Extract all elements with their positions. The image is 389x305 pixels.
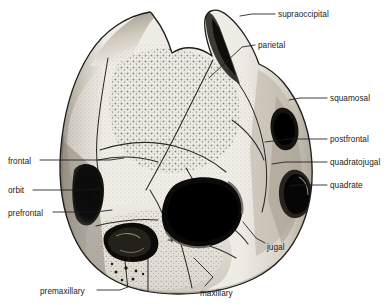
label-quadratojugal: quadratojugal <box>330 158 380 167</box>
leader-line-premaxillary <box>97 287 128 290</box>
label-orbit: orbit <box>8 186 24 195</box>
leader-line-postfrontal <box>265 139 327 142</box>
label-leader-lines <box>0 0 389 305</box>
label-postfrontal: postfrontal <box>330 135 369 144</box>
leader-line-supraoccipital <box>240 14 275 16</box>
label-parietal: parietal <box>258 41 285 50</box>
leader-line-jugal <box>243 222 265 243</box>
leader-line-squamosal <box>289 98 327 100</box>
leader-line-prefrontal <box>53 210 112 212</box>
leader-line-quadrate <box>290 185 327 186</box>
label-maxillary: maxillary <box>200 289 233 298</box>
label-quadrate: quadrate <box>330 181 363 190</box>
label-prefrontal: prefrontal <box>8 209 43 218</box>
leader-line-quadratojugal <box>272 162 327 164</box>
label-supraoccipital: supraoccipital <box>278 10 329 19</box>
leader-line-frontal <box>40 158 124 160</box>
skull-anatomy-figure: supraoccipitalparietalsquamosalpostfront… <box>0 0 389 305</box>
leader-line-orbit <box>33 189 100 190</box>
leader-line-parietal <box>209 45 255 78</box>
leader-line-maxillary <box>194 258 213 286</box>
label-squamosal: squamosal <box>330 94 370 103</box>
label-premaxillary: premaxillary <box>40 287 85 296</box>
label-jugal: jugal <box>267 243 285 252</box>
label-frontal: frontal <box>8 157 31 166</box>
